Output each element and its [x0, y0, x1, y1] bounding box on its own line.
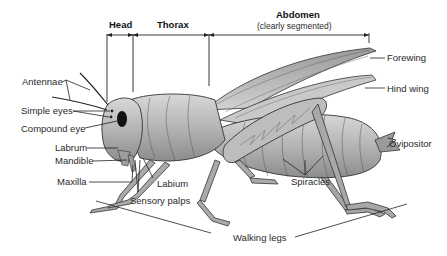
label-mandible: Mandible — [55, 156, 94, 166]
compound-eye-shape — [117, 111, 127, 127]
label-walking-legs: Walking legs — [233, 233, 287, 243]
label-simple-eyes: Simple eyes — [21, 106, 73, 116]
label-ovipositor: Ovipositor — [389, 139, 432, 149]
label-labium: Labium — [157, 179, 188, 189]
label-antennae: Antennae — [22, 77, 63, 87]
label-labrum: Labrum — [55, 143, 87, 153]
region-note-abdomen: (clearly segmented) — [257, 22, 332, 31]
label-maxilla: Maxilla — [57, 177, 87, 187]
label-hind-wing: Hind wing — [387, 84, 429, 94]
region-label-abdomen: Abdomen — [276, 10, 320, 20]
label-spiracles: Spiracles — [291, 177, 330, 187]
region-label-thorax: Thorax — [157, 20, 189, 30]
region-label-head: Head — [109, 20, 132, 30]
label-forewing: Forewing — [387, 53, 426, 63]
grasshopper-diagram: Head Thorax Abdomen (clearly segmented) … — [0, 0, 447, 256]
label-compound-eye: Compound eye — [21, 124, 85, 134]
label-sensory-palps: Sensory palps — [130, 196, 190, 206]
